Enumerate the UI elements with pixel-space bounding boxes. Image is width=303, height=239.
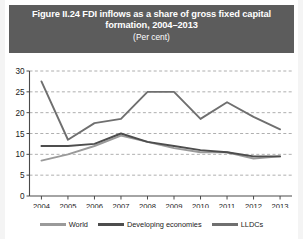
x-tick-label: 2007 xyxy=(113,202,130,208)
legend-item-lldcs[interactable]: LLDCs xyxy=(212,220,264,229)
chart-plot-area: 051015202530 200420052006200720082009201… xyxy=(0,58,303,208)
series-line-world xyxy=(41,136,280,161)
y-tick-label: 10 xyxy=(15,150,25,159)
y-tick-label: 5 xyxy=(20,171,25,180)
y-tick-label: 25 xyxy=(15,88,25,97)
y-tick-label: 0 xyxy=(20,192,25,201)
gridlines xyxy=(30,71,293,175)
x-tick-label: 2005 xyxy=(59,202,76,208)
data-series-group xyxy=(41,81,280,160)
x-tick-label: 2010 xyxy=(192,202,209,208)
y-tick-label: 15 xyxy=(15,130,25,139)
line-chart-svg: 051015202530 200420052006200720082009201… xyxy=(0,58,303,208)
legend-label: World xyxy=(69,220,88,229)
legend-swatch-icon xyxy=(40,223,66,226)
chart-legend: WorldDeveloping economiesLLDCs xyxy=(0,216,303,232)
x-tick-label: 2012 xyxy=(245,202,262,208)
x-tick-label: 2011 xyxy=(219,202,235,208)
x-tick-label: 2013 xyxy=(272,202,289,208)
series-line-lldcs xyxy=(41,81,280,139)
x-axis-labels: 2004200520062007200820092010201120122013 xyxy=(33,202,289,208)
y-tick-label: 20 xyxy=(15,109,25,118)
legend-swatch-icon xyxy=(98,223,124,226)
figure-title-banner: Figure II.24 FDI inflows as a share of g… xyxy=(9,5,294,53)
figure-title: Figure II.24 FDI inflows as a share of g… xyxy=(15,9,288,31)
legend-item-developing-economies[interactable]: Developing economies xyxy=(98,220,202,229)
x-tick-label: 2009 xyxy=(166,202,183,208)
x-tick-label: 2006 xyxy=(86,202,103,208)
legend-label: Developing economies xyxy=(127,220,202,229)
y-axis-labels: 051015202530 xyxy=(15,67,25,201)
x-tick-label: 2008 xyxy=(139,202,156,208)
x-tick-label: 2004 xyxy=(33,202,50,208)
figure-container: Figure II.24 FDI inflows as a share of g… xyxy=(0,0,303,239)
y-tick-label: 30 xyxy=(15,67,25,76)
figure-subtitle: (Per cent) xyxy=(15,32,288,43)
legend-label: LLDCs xyxy=(241,220,264,229)
legend-item-world[interactable]: World xyxy=(40,220,88,229)
legend-swatch-icon xyxy=(212,223,238,226)
